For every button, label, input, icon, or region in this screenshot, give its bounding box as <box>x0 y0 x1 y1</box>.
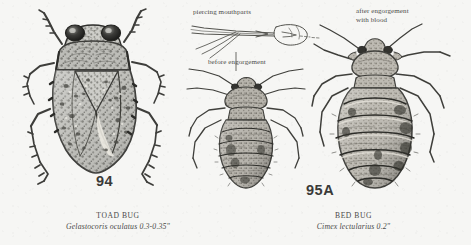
bed-bug-fed-pronotum <box>352 51 398 78</box>
toad-bug-illustration <box>18 8 193 193</box>
toad-bug-right-foreleg <box>124 9 146 42</box>
annotation-piercing-mouthparts: piercing mouthparts <box>193 8 251 17</box>
toad-bug-figure-number: 94 <box>96 173 113 189</box>
bed-bug-fed-drawing <box>300 22 468 200</box>
toad-bug-left-hindleg <box>28 109 50 184</box>
toad-bug-right-midleg <box>132 62 165 103</box>
toad-bug-left-foreleg <box>39 10 62 44</box>
toad-bug-right-eye <box>102 25 121 41</box>
illustration-plate: 94 TOAD BUG Gelastocoris oculatus 0.3-0.… <box>0 0 471 245</box>
bed-bug-scientific-name: Cimex lectularius 0.2" <box>236 222 471 232</box>
toad-bug-pronotum <box>56 41 130 70</box>
bed-bug-figure-number: 95A <box>306 182 334 198</box>
bed-bug-thorax <box>228 107 265 120</box>
toad-bug-left-eye <box>66 25 85 41</box>
toad-bug-scientific-name: Gelastocoris oculatus 0.3-0.35" <box>0 222 236 232</box>
toad-bug-drawing <box>18 8 193 193</box>
annotation-after-engorgement-line1: after engorgement <box>356 7 409 16</box>
bed-bug-before-engorgement <box>185 62 315 194</box>
bed-bug-unfed-drawing <box>185 62 315 194</box>
bed-bug-fed-thorax <box>354 75 396 88</box>
bed-bug-common-name: BED BUG <box>236 211 471 220</box>
toad-bug-right-hindleg <box>137 108 161 185</box>
bed-bug-after-engorgement <box>300 22 468 200</box>
toad-bug-common-name: TOAD BUG <box>0 211 236 220</box>
